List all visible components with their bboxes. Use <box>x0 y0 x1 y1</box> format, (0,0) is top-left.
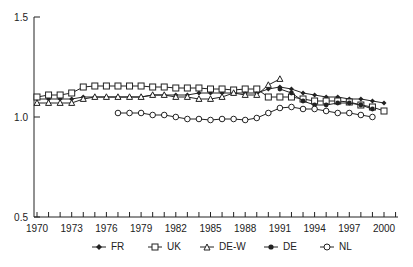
chart-legend: FR UK DE-W DE NL <box>0 241 413 261</box>
open-triangle-icon <box>200 242 214 252</box>
legend-label: NL <box>339 241 352 252</box>
open-circle-icon <box>320 242 334 252</box>
line-chart: 0.51.01.51970197319761979198219851988199… <box>0 0 413 240</box>
x-tick-label: 1973 <box>61 223 84 234</box>
legend-label: UK <box>167 241 181 252</box>
open-square-icon <box>148 242 162 252</box>
chart-axes: 0.51.01.51970197319761979198219851988199… <box>14 12 398 235</box>
x-tick-label: 1976 <box>95 223 118 234</box>
x-tick-label: 1988 <box>234 223 257 234</box>
filled-star-icon <box>264 242 278 252</box>
legend-label: DE <box>283 241 297 252</box>
legend-item-de: DE <box>264 241 297 252</box>
x-tick-label: 1994 <box>303 223 326 234</box>
x-tick-label: 1979 <box>130 223 153 234</box>
legend-label: DE-W <box>219 241 246 252</box>
y-tick-label: 1.5 <box>14 12 28 23</box>
x-tick-label: 1985 <box>199 223 222 234</box>
series-nl <box>115 104 375 123</box>
legend-item-de-w: DE-W <box>200 241 246 252</box>
y-tick-label: 0.5 <box>14 212 28 223</box>
legend-item-uk: UK <box>148 241 181 252</box>
legend-item-nl: NL <box>320 241 352 252</box>
x-tick-label: 1982 <box>165 223 188 234</box>
x-tick-label: 1991 <box>269 223 292 234</box>
x-tick-label: 1970 <box>26 223 49 234</box>
x-tick-label: 2000 <box>373 223 396 234</box>
filled-diamond-icon <box>92 242 106 252</box>
x-tick-label: 1997 <box>338 223 361 234</box>
legend-label: FR <box>111 241 124 252</box>
chart-series <box>34 76 387 123</box>
legend-item-fr: FR <box>92 241 124 252</box>
y-tick-label: 1.0 <box>14 112 28 123</box>
